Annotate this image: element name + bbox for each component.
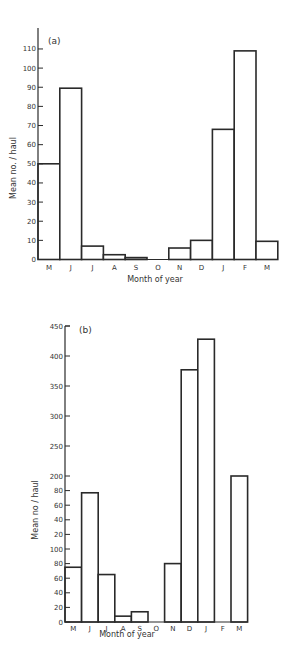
y-tick-label: 350 (50, 383, 63, 391)
y-tick-label: 80 (27, 103, 36, 111)
bar-mar (256, 241, 278, 259)
y-tick-label: 0 (59, 619, 63, 627)
x-tick-label: N (170, 625, 175, 633)
y-tick-label: 20 (27, 218, 36, 226)
x-tick-label: J (69, 264, 72, 272)
y-tick-label: 60 (54, 502, 63, 510)
x-tick-label: M (264, 264, 270, 272)
y-tick-label: 10 (27, 237, 36, 245)
x-tick-label: F (243, 264, 247, 272)
y-tick-label: 90 (27, 84, 36, 92)
bar-jan (212, 129, 234, 259)
y-axis-title: Mean no. / haul (9, 137, 18, 199)
bar-aug (115, 616, 132, 622)
y-tick-label: 100 (23, 65, 36, 73)
y-tick-label: 80 (54, 560, 63, 568)
chart-a: 0102030405060708090100110MJJASONDJFMMont… (9, 28, 278, 284)
y-tick-label: 110 (23, 45, 36, 53)
y-tick-label: 300 (50, 413, 63, 421)
y-tick-label: 60 (27, 141, 36, 149)
bar-dec (191, 240, 213, 259)
bar-jan (198, 339, 215, 622)
y-tick-label: 70 (27, 122, 36, 130)
bar-nov (169, 248, 191, 259)
y-tick-label: 450 (50, 323, 63, 331)
bar-jul (98, 575, 115, 622)
panel-label: (b) (79, 325, 92, 335)
y-tick-label: 40 (54, 516, 63, 524)
y-tick-label: 20 (54, 531, 63, 539)
y-tick-label: 100 (50, 546, 63, 554)
y-tick-label: 30 (27, 199, 36, 207)
y-tick-label: 80 (54, 487, 63, 495)
y-tick-label: 250 (50, 443, 63, 451)
bar-dec (181, 370, 198, 622)
bar-jun (60, 88, 82, 259)
y-tick-label: 60 (54, 575, 63, 583)
bar-sep (131, 612, 148, 622)
bar-aug (103, 255, 125, 260)
x-tick-label: M (70, 625, 76, 633)
x-tick-label: N (177, 264, 182, 272)
x-tick-label: A (112, 264, 117, 272)
x-tick-label: J (221, 264, 224, 272)
panel-label: (a) (48, 36, 61, 46)
y-tick-label: 20 (54, 604, 63, 612)
bar-mar (231, 476, 248, 622)
x-tick-label: J (90, 264, 93, 272)
y-tick-label: 0 (32, 256, 36, 264)
x-axis-title: Month of year (127, 275, 183, 284)
y-axis-title: Mean no / haul (31, 480, 40, 539)
x-tick-label: S (134, 264, 139, 272)
y-tick-label: 40 (54, 589, 63, 597)
x-axis-title: Month of year (99, 630, 155, 639)
y-tick-label: 400 (50, 353, 63, 361)
x-tick-label: O (155, 264, 161, 272)
y-tick-label: 40 (27, 179, 36, 187)
bar-jun (82, 493, 99, 622)
x-tick-label: D (187, 625, 192, 633)
figure: 0102030405060708090100110MJJASONDJFMMont… (0, 0, 287, 669)
bar-feb (234, 51, 256, 260)
x-tick-label: F (221, 625, 225, 633)
bar-may (38, 164, 60, 260)
x-tick-label: J (88, 625, 91, 633)
x-tick-label: J (204, 625, 207, 633)
bar-nov (165, 564, 182, 622)
bar-may (65, 567, 82, 622)
y-tick-label: 200 (50, 473, 63, 481)
y-tick-label: 50 (27, 160, 36, 168)
x-tick-label: M (236, 625, 242, 633)
x-tick-label: D (199, 264, 204, 272)
x-tick-label: M (46, 264, 52, 272)
bar-jul (82, 246, 104, 259)
chart-b: 02040608010020406080200250300350400450MJ… (31, 323, 248, 640)
